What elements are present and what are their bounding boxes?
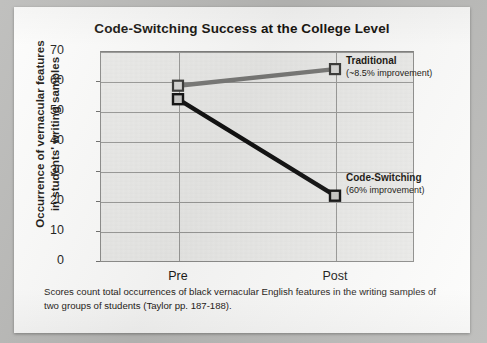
y-tick-30: 30	[30, 163, 64, 177]
y-tick-70: 70	[30, 43, 64, 57]
y-tick-60: 60	[30, 73, 64, 87]
chart-figure: Occurrence of vernacular features in stu…	[14, 39, 470, 279]
y-tick-0: 0	[30, 253, 64, 267]
x-tick-post: Post	[300, 269, 370, 283]
marker-traditional-post	[330, 64, 340, 74]
figure-page: Code-Switching Success at the College Le…	[0, 0, 487, 343]
annotation-traditional: Traditional (~8.5% improvement)	[346, 55, 432, 79]
x-tick-pre: Pre	[143, 269, 213, 283]
marker-traditional-pre	[173, 81, 183, 91]
y-tick-10: 10	[30, 223, 64, 237]
marker-code-switching-post	[330, 191, 340, 201]
figure-card: Code-Switching Success at the College Le…	[14, 7, 470, 333]
y-tick-20: 20	[30, 193, 64, 207]
annotation-code-switching-label: Code-Switching	[346, 172, 425, 184]
y-tick-50: 50	[30, 103, 64, 117]
chart-title: Code-Switching Success at the College Le…	[14, 21, 470, 36]
annotation-traditional-label: Traditional	[346, 55, 432, 67]
series-line-traditional	[178, 69, 335, 86]
series-layer	[100, 51, 414, 262]
annotation-code-switching-detail: (60% improvement)	[346, 184, 425, 196]
marker-code-switching-pre	[173, 94, 183, 104]
series-line-code-switching	[178, 99, 335, 196]
annotation-code-switching: Code-Switching (60% improvement)	[346, 172, 425, 196]
figure-caption: Scores count total occurrences of black …	[44, 285, 444, 313]
y-tick-40: 40	[30, 133, 64, 147]
annotation-traditional-detail: (~8.5% improvement)	[346, 67, 432, 79]
